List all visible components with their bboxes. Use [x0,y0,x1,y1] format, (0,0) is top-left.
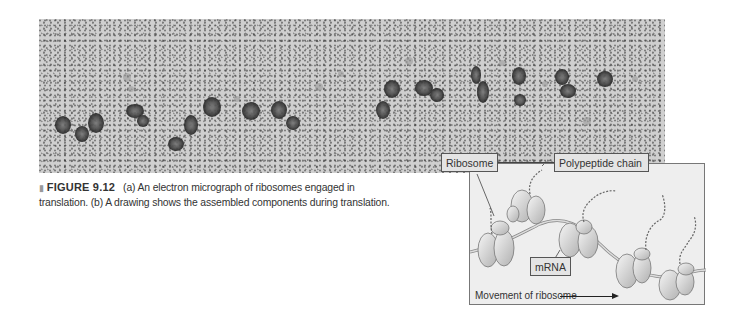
ribosome-blobs [39,19,665,173]
arrowhead-icon [612,293,619,299]
ribosome-leader-line [498,162,554,163]
triangle-bullet-icon: ▮ [39,183,44,193]
translation-diagram [469,163,705,305]
figure-number: FIGURE 9.12 [47,181,115,193]
mrna-label: mRNA [530,257,571,276]
figure-caption: ▮FIGURE 9.12(a) An electron micrograph o… [39,181,439,209]
ribosome-label: Ribosome [441,153,498,172]
electron-micrograph [39,19,665,173]
caption-line-2: translation. (b) A drawing shows the ass… [39,197,390,208]
caption-line-1: (a) An electron micrograph of ribosomes … [123,182,355,193]
polypeptide-chain-label: Polypeptide chain [554,153,649,172]
ribosome-drawing [470,164,706,306]
movement-arrow-icon [560,296,614,297]
